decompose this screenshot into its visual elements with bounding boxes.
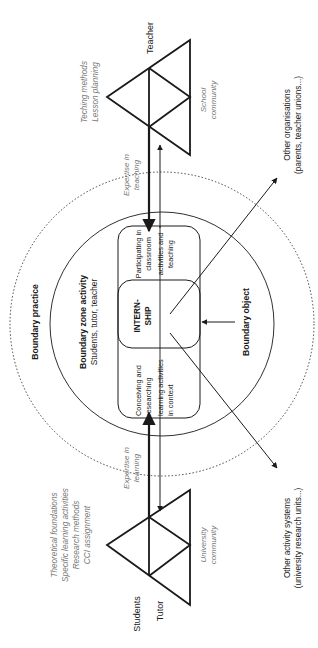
other-activity-systems-arrow — [170, 333, 277, 468]
svg-text:community: community — [209, 80, 218, 120]
university-community-text: University community — [199, 525, 218, 565]
expertise-learning-text: Expertise in learning — [122, 447, 141, 489]
svg-text:Participating in: Participating in — [134, 230, 143, 278]
svg-text:INTERN-: INTERN- — [133, 299, 142, 332]
svg-text:University: University — [199, 526, 208, 562]
svg-text:Expertise in: Expertise in — [122, 447, 131, 489]
tutor-label: Tutor — [155, 601, 165, 622]
learning-side-activity-text: Conceiving and researching learning acti… — [134, 359, 175, 416]
internship-box — [118, 280, 200, 348]
svg-text:learning activities: learning activities — [156, 359, 165, 416]
boundary-practice-label: Boundary practice — [30, 284, 40, 360]
svg-text:School: School — [199, 88, 208, 113]
other-activity-systems-text: Other activity systems (university resea… — [283, 487, 303, 588]
other-organisations-text: Other organisations (parents, teacher un… — [283, 76, 303, 174]
svg-text:classroom: classroom — [144, 237, 153, 271]
teacher-label: Teacher — [145, 22, 155, 54]
svg-text:community: community — [209, 525, 218, 565]
boundary-practice-diagram: Teacher Teching methods Lesson planning … — [0, 0, 318, 648]
students-label: Students — [132, 596, 142, 632]
svg-text:CCI assignment: CCI assignment — [83, 505, 92, 564]
svg-text:(university research units...): (university research units...) — [294, 487, 303, 588]
school-community-text: School community — [199, 80, 218, 120]
svg-text:Expertise in: Expertise in — [122, 154, 131, 196]
teacher-tools-text: Teching methods Lesson planning — [80, 61, 100, 123]
svg-text:Theoretical foundations: Theoretical foundations — [50, 492, 59, 577]
other-organisations-arrow — [170, 178, 277, 314]
internship-label: INTERN- SHIP — [131, 298, 156, 334]
svg-text:Lesson planning: Lesson planning — [91, 62, 100, 122]
svg-text:teaching: teaching — [132, 159, 141, 190]
boundary-zone-text: Boundary zone activity Students, tutor, … — [78, 275, 99, 369]
svg-text:activities and: activities and — [156, 233, 165, 276]
svg-text:Other organisations: Other organisations — [283, 89, 292, 160]
svg-text:Teching methods: Teching methods — [80, 61, 89, 123]
svg-text:Conceiving and: Conceiving and — [134, 365, 143, 416]
expertise-teaching-text: Expertise in teaching — [122, 154, 141, 196]
svg-text:Boundary zone activity: Boundary zone activity — [78, 275, 88, 369]
university-tools-text: Theoretical foundations Specific learnin… — [50, 488, 92, 582]
svg-text:in context: in context — [166, 384, 175, 416]
svg-text:Students, tutor, teacher: Students, tutor, teacher — [89, 278, 99, 365]
boundary-practice-circle — [10, 172, 314, 476]
svg-text:SHIP: SHIP — [144, 306, 153, 326]
svg-text:teaching: teaching — [166, 240, 175, 268]
svg-text:(parents, teacher unions...): (parents, teacher unions...) — [294, 76, 303, 174]
svg-text:learning: learning — [132, 453, 141, 482]
svg-text:researching: researching — [144, 377, 153, 416]
svg-text:Research methods: Research methods — [72, 501, 81, 570]
svg-text:Other activity systems: Other activity systems — [283, 498, 292, 578]
teaching-side-activity-text: Participating in classroom activities an… — [134, 230, 175, 278]
boundary-object-label: Boundary object — [241, 288, 251, 356]
svg-text:Specific learning activities: Specific learning activities — [61, 488, 70, 582]
